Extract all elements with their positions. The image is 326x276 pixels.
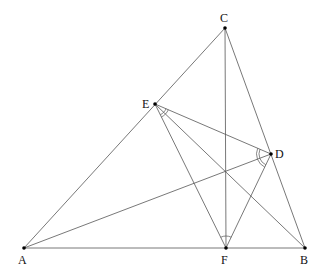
label-B: B xyxy=(300,253,308,267)
segment-BC xyxy=(225,28,305,248)
segments xyxy=(24,28,305,248)
point-D xyxy=(269,152,273,156)
point-F xyxy=(224,246,228,250)
angle-arc-E xyxy=(161,114,165,117)
segment-CF xyxy=(225,28,226,248)
point-E xyxy=(153,102,157,106)
point-B xyxy=(303,246,307,250)
angle-arc-E xyxy=(165,110,168,114)
diagram-canvas: ABCDEF xyxy=(0,0,326,276)
points xyxy=(22,26,307,250)
segment-ED xyxy=(155,104,271,154)
point-labels: ABCDEF xyxy=(18,11,308,267)
segment-DF xyxy=(226,154,271,248)
point-A xyxy=(22,246,26,250)
segment-AC xyxy=(24,28,225,248)
point-C xyxy=(223,26,227,30)
label-A: A xyxy=(18,253,27,267)
label-C: C xyxy=(220,11,228,25)
angle-arc-D xyxy=(259,149,260,158)
label-D: D xyxy=(275,147,284,161)
label-E: E xyxy=(142,97,149,111)
angle-marks xyxy=(160,109,266,237)
geometry-diagram: ABCDEF xyxy=(0,0,326,276)
angle-arc-D xyxy=(257,148,258,159)
angle-arc-E xyxy=(164,109,166,113)
label-F: F xyxy=(221,253,228,267)
segment-BE xyxy=(155,104,305,248)
angle-arc-F xyxy=(221,236,226,237)
segment-EF xyxy=(155,104,226,248)
angle-arc-E xyxy=(160,112,163,114)
segment-AD xyxy=(24,154,271,248)
angle-arc-F xyxy=(226,236,231,237)
